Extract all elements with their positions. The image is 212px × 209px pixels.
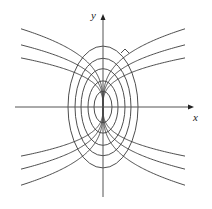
right-angle-marker <box>121 49 129 53</box>
trajectory-curve <box>21 107 103 169</box>
trajectory-curve <box>103 107 185 169</box>
x-axis-label: x <box>193 112 198 123</box>
coordinate-axes <box>15 14 194 197</box>
trajectory-curve <box>21 45 103 107</box>
x-axis-arrowhead-icon <box>188 105 194 110</box>
trajectory-curve <box>103 45 185 107</box>
orthogonal-trajectories-diagram <box>0 0 212 209</box>
y-axis-arrowhead-icon <box>101 14 106 20</box>
y-axis-label: y <box>91 10 96 21</box>
